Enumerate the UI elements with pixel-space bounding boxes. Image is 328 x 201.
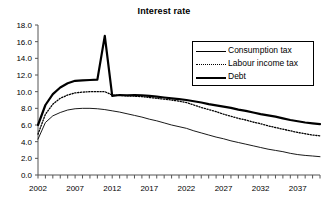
x-axis-tick-label: 2017	[140, 184, 158, 193]
y-axis-tick-label: 18.0	[16, 21, 32, 30]
legend-swatch-dotted-line-icon	[196, 59, 226, 69]
legend-swatch-thick-line-icon	[196, 72, 226, 82]
x-axis-tick-label: 2002	[29, 184, 47, 193]
legend-item-debt: Debt	[196, 70, 309, 83]
y-axis-tick-label: 8.0	[21, 104, 33, 113]
chart-container: Interest rate 0.02.04.06.08.010.012.014.…	[0, 0, 328, 201]
legend-item-labour-income-tax: Labour income tax	[196, 57, 309, 70]
x-axis-tick-label: 2027	[215, 184, 233, 193]
y-axis-tick-label: 4.0	[21, 138, 33, 147]
y-axis-tick-label: 10.0	[16, 88, 32, 97]
y-axis-tick-label: 14.0	[16, 54, 32, 63]
legend-item-consumption-tax: Consumption tax	[196, 44, 309, 57]
x-axis-tick-label: 2012	[103, 184, 121, 193]
y-axis: 0.02.04.06.08.010.012.014.016.018.0	[16, 21, 38, 180]
y-axis-tick-label: 2.0	[21, 154, 33, 163]
x-axis-tick-label: 2032	[252, 184, 270, 193]
y-axis-tick-label: 0.0	[21, 171, 33, 180]
legend-swatch-thin-line-icon	[196, 46, 226, 56]
y-axis-tick-label: 12.0	[16, 71, 32, 80]
x-axis-tick-label: 2007	[66, 184, 84, 193]
chart-plot-area: 0.02.04.06.08.010.012.014.016.018.0 2002…	[0, 0, 328, 201]
x-axis-tick-label: 2022	[178, 184, 196, 193]
chart-legend: Consumption tax Labour income tax Debt	[192, 41, 314, 86]
legend-label: Labour income tax	[228, 58, 298, 69]
y-axis-tick-label: 6.0	[21, 121, 33, 130]
legend-label: Consumption tax	[228, 45, 292, 56]
series-line-consumption-tax	[38, 108, 320, 156]
x-axis-tick-label: 2037	[289, 184, 307, 193]
x-axis: 20022007201220172022202720322037	[29, 175, 320, 193]
y-axis-tick-label: 16.0	[16, 38, 32, 47]
legend-label: Debt	[228, 71, 246, 82]
